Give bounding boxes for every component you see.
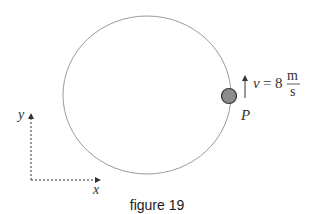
unit-denominator: s: [290, 84, 295, 99]
x-axis-label: x: [92, 182, 100, 197]
figure-caption: figure 19: [0, 197, 314, 213]
circular-path: [63, 16, 231, 174]
unit-numerator: m: [287, 68, 298, 83]
ball-p: [222, 89, 237, 104]
velocity-symbol: v: [253, 75, 260, 91]
figure-canvas: v = 8 m s P y x figure 19: [0, 0, 314, 214]
point-label: P: [240, 107, 250, 123]
diagram-svg: v = 8 m s P y x: [0, 0, 314, 214]
velocity-equals: =: [263, 75, 271, 91]
velocity-value: 8: [275, 75, 283, 91]
y-axis-label: y: [16, 107, 25, 122]
